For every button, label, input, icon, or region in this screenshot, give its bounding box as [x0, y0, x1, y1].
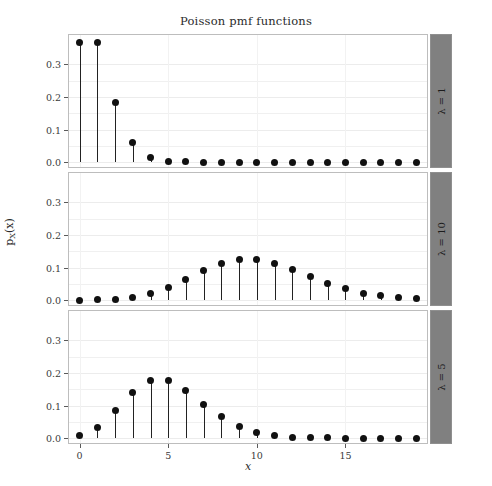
- gridline-horizontal: [69, 202, 427, 203]
- stem-line: [151, 381, 152, 438]
- gridline-horizontal: [69, 300, 427, 301]
- gridline-vertical: [80, 311, 81, 443]
- stem-line: [204, 404, 205, 438]
- data-point: [413, 159, 420, 166]
- data-point: [236, 256, 243, 263]
- data-point: [76, 297, 83, 304]
- x-tick-label: 5: [153, 450, 183, 461]
- data-point: [324, 159, 331, 166]
- stem-line: [221, 417, 222, 438]
- y-tick-mark: [64, 300, 68, 301]
- data-point: [253, 159, 260, 166]
- data-point: [395, 435, 402, 442]
- plot-area: [69, 311, 427, 443]
- gridline-horizontal: [69, 235, 427, 236]
- data-point: [112, 99, 119, 106]
- data-point: [94, 39, 101, 46]
- y-tick-label: 0.2: [31, 229, 61, 240]
- gridline-horizontal-minor: [69, 113, 427, 114]
- y-tick-label: 0.2: [31, 367, 61, 378]
- gridline-vertical: [168, 35, 169, 167]
- strip-label: λ = 5: [436, 363, 447, 390]
- data-point: [342, 285, 349, 292]
- x-tick-label: 10: [242, 450, 272, 461]
- y-axis-label-subscript: X: [8, 233, 17, 239]
- data-point: [307, 159, 314, 166]
- data-point: [360, 159, 367, 166]
- y-tick-label: 0.0: [31, 157, 61, 168]
- data-point: [253, 429, 260, 436]
- plot-panel-lambda-5: [68, 310, 428, 444]
- gridline-vertical: [345, 311, 346, 443]
- gridline-horizontal: [69, 373, 427, 374]
- data-point: [165, 377, 172, 384]
- x-tick-label: 15: [330, 450, 360, 461]
- y-tick-mark: [64, 130, 68, 131]
- stem-line: [80, 42, 81, 162]
- data-point: [218, 260, 225, 267]
- gridline-horizontal: [69, 97, 427, 98]
- data-point: [360, 435, 367, 442]
- gridline-horizontal: [69, 130, 427, 131]
- y-tick-label: 0.0: [31, 295, 61, 306]
- data-point: [129, 139, 136, 146]
- data-point: [377, 292, 384, 299]
- gridline-horizontal: [69, 268, 427, 269]
- y-tick-label: 0.3: [31, 335, 61, 346]
- stem-line: [115, 102, 116, 162]
- data-point: [200, 159, 207, 166]
- data-point: [324, 434, 331, 441]
- gridline-horizontal: [69, 64, 427, 65]
- plot-panel-lambda-10: [68, 172, 428, 306]
- gridline-horizontal: [69, 406, 427, 407]
- data-point: [307, 273, 314, 280]
- gridline-horizontal-minor: [69, 422, 427, 423]
- data-point: [253, 256, 260, 263]
- data-point: [360, 290, 367, 297]
- y-tick-label: 0.1: [31, 400, 61, 411]
- data-point: [94, 424, 101, 431]
- data-point: [147, 377, 154, 384]
- stem-line: [133, 392, 134, 438]
- gridline-horizontal: [69, 340, 427, 341]
- x-axis-label: x: [68, 460, 428, 473]
- data-point: [289, 434, 296, 441]
- x-tick-mark: [345, 444, 346, 448]
- data-point: [147, 290, 154, 297]
- data-point: [218, 413, 225, 420]
- data-point: [271, 432, 278, 439]
- data-point: [76, 39, 83, 46]
- data-point: [271, 159, 278, 166]
- y-tick-mark: [64, 162, 68, 163]
- data-point: [200, 267, 207, 274]
- panel-strip-lambda-10: λ = 10: [430, 172, 452, 306]
- gridline-horizontal-minor: [69, 357, 427, 358]
- data-point: [307, 434, 314, 441]
- gridline-horizontal-minor: [69, 389, 427, 390]
- panel-strip-lambda-5: λ = 5: [430, 310, 452, 444]
- data-point: [289, 266, 296, 273]
- gridline-horizontal-minor: [69, 284, 427, 285]
- y-axis-label-p: p: [3, 239, 16, 246]
- gridline-horizontal-minor: [69, 81, 427, 82]
- gridline-vertical: [257, 35, 258, 167]
- gridline-vertical: [345, 35, 346, 167]
- y-tick-mark: [64, 373, 68, 374]
- panel-strip-lambda-1: λ = 1: [430, 34, 452, 168]
- data-point: [413, 295, 420, 302]
- plot-area: [69, 173, 427, 305]
- y-axis-label-arg: (x): [3, 218, 16, 233]
- plot-panel-lambda-1: [68, 34, 428, 168]
- data-point: [147, 154, 154, 161]
- stem-line: [221, 263, 222, 300]
- gridline-vertical: [80, 173, 81, 305]
- stem-line: [239, 259, 240, 300]
- data-point: [271, 260, 278, 267]
- strip-label: λ = 1: [436, 87, 447, 114]
- data-point: [236, 159, 243, 166]
- y-axis-label: pX(x): [3, 202, 17, 262]
- stem-line: [275, 263, 276, 300]
- data-point: [395, 159, 402, 166]
- gridline-horizontal-minor: [69, 219, 427, 220]
- data-point: [182, 387, 189, 394]
